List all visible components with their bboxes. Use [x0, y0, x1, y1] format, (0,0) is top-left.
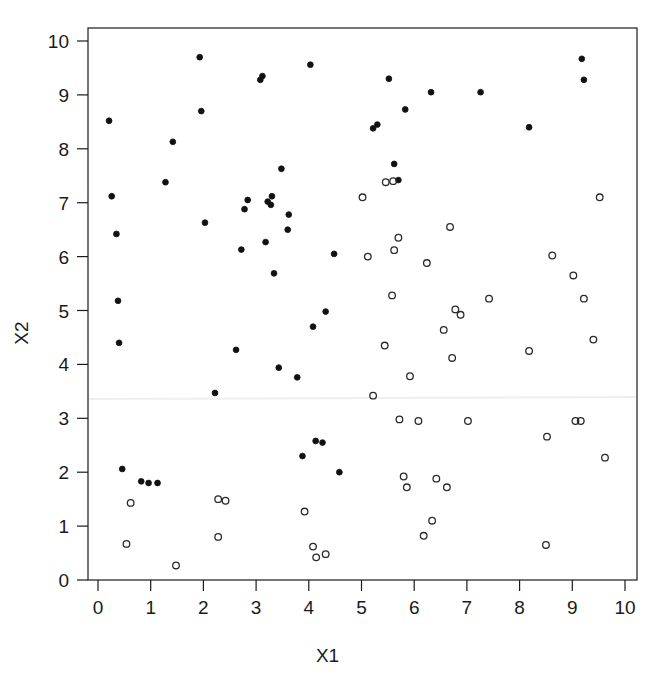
x-axis-title: X1 [0, 645, 655, 667]
data-point [331, 251, 337, 257]
y-axis-title: X2 [11, 293, 33, 373]
y-tick-label: 0 [58, 570, 69, 591]
data-point [106, 118, 112, 124]
data-point [263, 239, 269, 245]
data-point [602, 454, 609, 461]
data-point [146, 480, 152, 486]
data-point [549, 252, 556, 259]
data-point [581, 77, 587, 83]
x-tick-label: 10 [614, 597, 635, 618]
x-tick-label: 1 [145, 597, 156, 618]
data-point [579, 56, 585, 62]
data-point [212, 390, 218, 396]
data-point [222, 497, 229, 504]
series-class-2 [123, 178, 608, 569]
data-point [313, 554, 320, 561]
data-point [300, 453, 306, 459]
data-point [381, 342, 388, 349]
data-point [444, 484, 451, 491]
data-point [115, 298, 121, 304]
data-point [590, 336, 597, 343]
data-point [400, 473, 407, 480]
y-tick-label: 6 [58, 247, 69, 268]
data-point [269, 193, 275, 199]
y-tick-label: 2 [58, 462, 69, 483]
data-point [114, 231, 120, 237]
data-point [286, 212, 292, 218]
data-point [294, 374, 300, 380]
data-point [382, 179, 389, 186]
x-tick-label: 9 [567, 597, 578, 618]
data-point [310, 324, 316, 330]
scatter-plot-figure: 012345678910012345678910 X1 X2 [0, 0, 655, 684]
data-point [155, 480, 161, 486]
data-point [322, 551, 329, 558]
y-tick-label: 5 [58, 301, 69, 322]
data-point [313, 438, 319, 444]
data-point [420, 533, 427, 540]
data-point [320, 440, 326, 446]
data-point [260, 73, 266, 79]
series-class-1 [106, 54, 587, 486]
data-point [238, 247, 244, 253]
data-point [310, 543, 317, 550]
data-point [109, 193, 115, 199]
y-tick-label: 1 [58, 516, 69, 537]
data-point [402, 107, 408, 113]
data-point [396, 416, 403, 423]
x-tick-label: 2 [198, 597, 209, 618]
plot-canvas: 012345678910012345678910 [0, 0, 655, 684]
data-point [386, 76, 392, 82]
data-point [276, 365, 282, 371]
data-point [215, 534, 222, 541]
data-point [415, 418, 422, 425]
data-point [428, 89, 434, 95]
data-point [449, 355, 456, 362]
data-point [271, 270, 277, 276]
data-point [407, 373, 414, 380]
data-point [526, 348, 533, 355]
x-tick-label: 7 [462, 597, 473, 618]
data-point [478, 89, 484, 95]
data-point [123, 541, 130, 548]
data-point [391, 247, 398, 254]
data-point [359, 194, 366, 201]
data-point [301, 508, 308, 515]
data-point [268, 202, 274, 208]
data-point [138, 478, 144, 484]
data-point [424, 260, 431, 267]
x-tick-label: 4 [304, 597, 315, 618]
x-tick-label: 0 [93, 597, 104, 618]
data-point [395, 234, 402, 241]
data-point [391, 161, 397, 167]
data-point [457, 312, 464, 319]
data-point [323, 309, 329, 315]
data-point [581, 295, 588, 302]
data-point [544, 433, 551, 440]
data-point [404, 484, 411, 491]
data-point [198, 108, 204, 114]
data-point [116, 340, 122, 346]
y-tick-label: 7 [58, 193, 69, 214]
data-point [433, 475, 440, 482]
data-point [119, 466, 125, 472]
data-point [570, 272, 577, 279]
y-tick-label: 8 [58, 139, 69, 160]
y-tick-label: 10 [48, 31, 69, 52]
data-point [440, 327, 447, 334]
x-tick-label: 8 [514, 597, 525, 618]
data-point [245, 197, 251, 203]
data-point [163, 179, 169, 185]
data-point [197, 54, 203, 60]
x-tick-label: 5 [356, 597, 367, 618]
y-tick-label: 3 [58, 408, 69, 429]
y-tick-label: 9 [58, 85, 69, 106]
plot-frame [88, 28, 637, 580]
data-point [285, 227, 291, 233]
data-point [543, 542, 550, 549]
data-point [365, 253, 372, 260]
data-point [279, 166, 285, 172]
y-tick-label: 4 [58, 354, 69, 375]
data-point [465, 418, 472, 425]
data-point [173, 562, 180, 569]
